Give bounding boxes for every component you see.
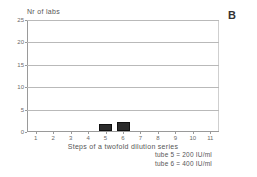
- plot-area: 0510152025 1234567891011: [27, 20, 219, 132]
- plot-frame-right: [218, 20, 219, 132]
- x-tick-mark: [175, 132, 176, 134]
- y-tick-label: 10: [17, 84, 24, 90]
- y-tick-mark: [25, 132, 27, 133]
- x-tick-mark: [71, 132, 72, 134]
- x-tick-label: 4: [86, 135, 89, 141]
- y-tick-label: 25: [17, 17, 24, 23]
- x-tick-mark: [106, 132, 107, 134]
- y-tick-mark: [25, 65, 27, 66]
- x-tick-mark: [193, 132, 194, 134]
- gridline: [27, 110, 219, 111]
- y-tick-label: 5: [21, 107, 24, 113]
- x-tick-label: 7: [139, 135, 142, 141]
- y-tick-mark: [25, 110, 27, 111]
- y-tick-label: 0: [21, 129, 24, 135]
- x-tick-mark: [140, 132, 141, 134]
- x-tick-label: 6: [121, 135, 124, 141]
- y-tick-label: 15: [17, 62, 24, 68]
- y-tick-label: 20: [17, 39, 24, 45]
- x-tick-label: 8: [156, 135, 159, 141]
- x-tick-label: 1: [34, 135, 37, 141]
- x-tick-mark: [53, 132, 54, 134]
- legend-entry: tube 6 = 400 IU/ml: [155, 159, 212, 168]
- x-tick-mark: [123, 132, 124, 134]
- bar: [117, 122, 130, 131]
- gridline: [27, 65, 219, 66]
- x-tick-label: 11: [207, 135, 213, 141]
- x-tick-label: 10: [189, 135, 196, 141]
- x-tick-label: 9: [174, 135, 177, 141]
- y-tick-mark: [25, 87, 27, 88]
- y-axis-line: [27, 20, 28, 132]
- gridline: [27, 20, 219, 21]
- x-tick-label: 3: [69, 135, 72, 141]
- x-axis-title: Steps of a twofold dilution series: [27, 143, 219, 150]
- y-axis-title: Nr of labs: [27, 8, 60, 15]
- panel-label: B: [228, 9, 236, 21]
- x-tick-mark: [210, 132, 211, 134]
- x-tick-label: 2: [52, 135, 55, 141]
- x-tick-mark: [88, 132, 89, 134]
- y-tick-mark: [25, 42, 27, 43]
- x-tick-mark: [36, 132, 37, 134]
- gridline: [27, 87, 219, 88]
- chart-legend: tube 5 = 200 IU/mltube 6 = 400 IU/ml: [155, 150, 212, 168]
- bar: [99, 124, 112, 131]
- legend-entry: tube 5 = 200 IU/ml: [155, 150, 212, 159]
- y-tick-mark: [25, 20, 27, 21]
- x-tick-mark: [158, 132, 159, 134]
- gridline: [27, 42, 219, 43]
- x-tick-label: 5: [104, 135, 107, 141]
